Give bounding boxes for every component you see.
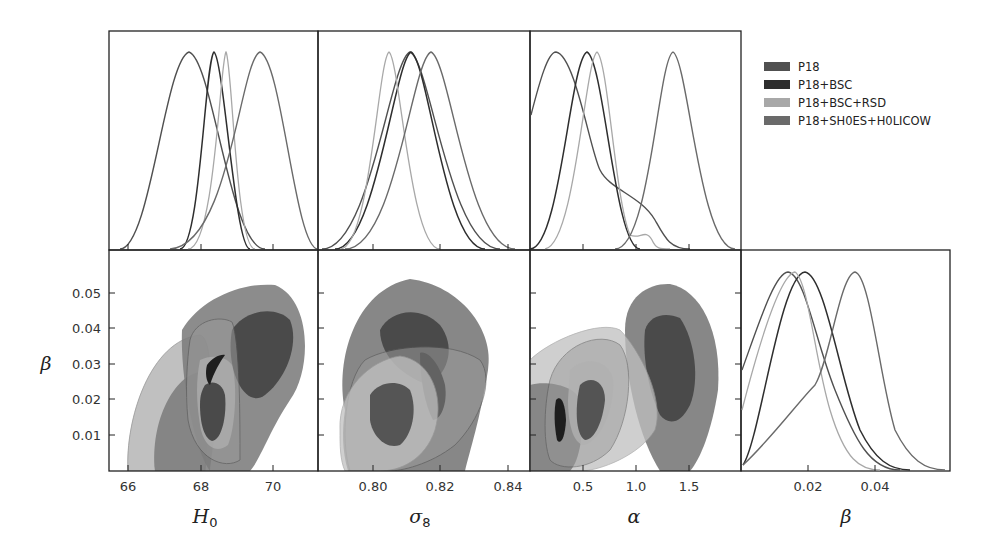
curve-p18-sh0es-h0licow xyxy=(615,52,735,249)
y-tick-0-04: 0.04 xyxy=(72,321,101,336)
y-tick-0-02: 0.02 xyxy=(72,392,101,407)
x-axis-label-sigma8: σ8 xyxy=(409,505,430,530)
x-axis-sigma8-ticks: 0.80 0.82 0.84 xyxy=(359,479,523,494)
legend-swatch-p18-bsc-rsd xyxy=(764,98,790,107)
x-tick-1-0: 1.0 xyxy=(626,479,647,494)
marginal-sigma8-panel xyxy=(318,31,530,250)
curve-p18-bsc-rsd xyxy=(340,52,440,249)
x-axis-beta-ticks: 0.02 0.04 xyxy=(794,479,890,494)
corner-plot: P18 P18+BSC P18+BSC+RSD P18+SH0ES+H0LICO… xyxy=(0,0,991,550)
curve-p18-sh0es-h0licow xyxy=(743,272,945,470)
x-tick-68: 68 xyxy=(193,479,210,494)
x-axis-label-h0: H0 xyxy=(192,505,218,530)
curve-p18-bsc-rsd xyxy=(742,272,880,470)
x-tick-0-02: 0.02 xyxy=(794,479,823,494)
legend-label-p18: P18 xyxy=(798,60,820,74)
x-tick-0-5: 0.5 xyxy=(573,479,594,494)
x-axis-h0-ticks: 66 68 70 xyxy=(120,479,282,494)
legend-label-p18-bsc-rsd: P18+BSC+RSD xyxy=(798,96,886,110)
legend-swatch-p18 xyxy=(764,62,790,71)
marginal-beta-panel xyxy=(741,250,950,471)
y-axis-beta-ticks: 0.05 0.04 0.03 0.02 0.01 xyxy=(72,286,101,443)
marginal-alpha-panel xyxy=(530,31,741,250)
x-tick-70: 70 xyxy=(265,479,282,494)
legend-label-p18-sh0es-h0licow: P18+SH0ES+H0LICOW xyxy=(798,114,931,128)
x-tick-1-5: 1.5 xyxy=(679,479,700,494)
curve-p18-sh0es-h0licow xyxy=(345,52,515,249)
legend-swatch-p18-bsc xyxy=(764,80,790,89)
curve-p18 xyxy=(322,52,500,249)
y-tick-0-05: 0.05 xyxy=(72,286,101,301)
curve-p18-bsc xyxy=(743,272,910,470)
y-axis-label-beta: β xyxy=(40,352,52,374)
contour-h0-beta-panel xyxy=(109,250,318,471)
marginal-h0-panel xyxy=(109,31,318,250)
y-tick-0-01: 0.01 xyxy=(72,428,101,443)
x-tick-66: 66 xyxy=(120,479,137,494)
x-axis-alpha-ticks: 0.5 1.0 1.5 xyxy=(573,479,700,494)
contour-alpha-beta-panel xyxy=(530,250,741,471)
legend: P18 P18+BSC P18+BSC+RSD P18+SH0ES+H0LICO… xyxy=(764,60,931,128)
x-axis-label-alpha: α xyxy=(628,505,641,527)
y-tick-0-03: 0.03 xyxy=(72,357,101,372)
x-tick-0-04: 0.04 xyxy=(861,479,890,494)
curve-p18-bsc xyxy=(530,52,640,249)
x-tick-0-82: 0.82 xyxy=(426,479,455,494)
x-tick-0-84: 0.84 xyxy=(494,479,523,494)
contour-sigma8-beta-panel xyxy=(318,250,530,471)
x-axis-label-beta: β xyxy=(840,505,852,527)
x-tick-0-80: 0.80 xyxy=(359,479,388,494)
legend-swatch-p18-sh0es-h0licow xyxy=(764,116,790,125)
legend-label-p18-bsc: P18+BSC xyxy=(798,78,852,92)
